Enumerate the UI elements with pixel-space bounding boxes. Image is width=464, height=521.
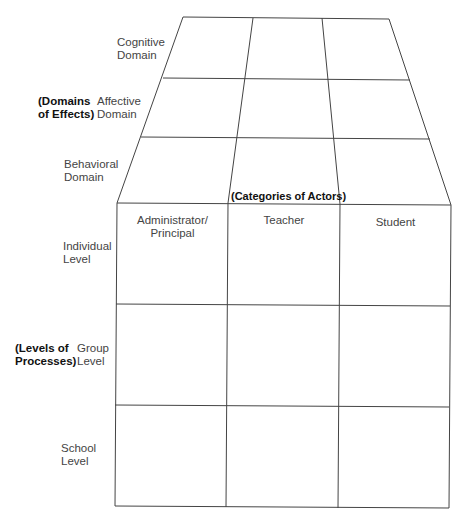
domain-column-divider-2 xyxy=(322,18,340,204)
front-left-edge xyxy=(115,203,117,506)
row-line-individual-group xyxy=(116,304,450,306)
column-label-student: Student xyxy=(340,216,451,229)
actor-column-divider-2 xyxy=(338,204,340,508)
row-label-cognitive-domain: Cognitive Domain xyxy=(117,36,165,62)
front-top-edge xyxy=(117,203,451,205)
right-slant-edge xyxy=(389,19,451,205)
domains-grid xyxy=(117,17,451,205)
column-label-teacher: Teacher xyxy=(228,214,340,227)
group-label-domains-of-effects: (Domains of Effects) xyxy=(38,95,94,121)
row-label-individual-level: Individual Level xyxy=(63,240,112,266)
row-label-behavioral-domain: Behavioral Domain xyxy=(64,158,118,184)
levels-grid xyxy=(115,203,451,508)
front-right-edge xyxy=(449,205,451,508)
row-line-group-school xyxy=(115,405,449,407)
top-edge xyxy=(183,17,389,19)
row-line-cognitive-affective xyxy=(163,78,410,80)
group-label-categories-of-actors: (Categories of Actors) xyxy=(231,190,346,203)
row-line-affective-behavioral xyxy=(141,137,430,139)
group-label-levels-of-processes: (Levels of Processes) xyxy=(15,342,76,368)
column-label-administrator-principal: Administrator/ Principal xyxy=(117,214,228,240)
row-label-group-level: Group Level xyxy=(77,342,109,368)
front-bottom-edge xyxy=(115,506,449,508)
domain-column-divider-1 xyxy=(228,18,253,203)
actor-column-divider-1 xyxy=(226,203,228,507)
row-label-affective-domain: Affective Domain xyxy=(97,95,141,121)
row-label-school-level: School Level xyxy=(61,442,96,468)
